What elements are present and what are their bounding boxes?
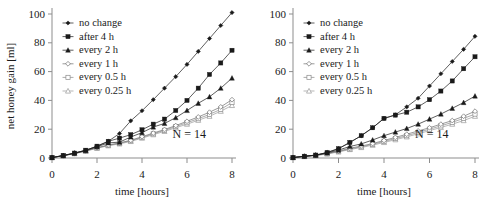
data-marker	[427, 117, 432, 122]
x-tick-label: 8	[229, 168, 235, 180]
x-tick-label: 8	[472, 168, 478, 180]
data-marker	[173, 115, 178, 120]
data-marker	[185, 108, 190, 113]
data-marker	[151, 122, 155, 126]
data-marker	[473, 55, 477, 59]
chart-panel-right: 02040608010002468time [hours]no changeaf…	[243, 0, 486, 206]
data-marker	[450, 106, 455, 111]
legend-label: every 0.5 h	[320, 71, 368, 82]
y-tick-label: 40	[275, 94, 287, 106]
x-tick-label: 2	[336, 168, 342, 180]
legend-marker	[63, 75, 74, 79]
legend-marker	[63, 88, 74, 93]
data-marker	[461, 100, 466, 105]
data-marker	[162, 121, 167, 126]
series-every-2-h	[291, 94, 478, 160]
data-marker	[405, 110, 409, 114]
chart-legend: no changeafter 4 hevery 2 hevery 1 hever…	[63, 17, 132, 96]
data-marker	[140, 128, 144, 132]
y-tick-label: 20	[34, 123, 46, 135]
x-tick-label: 2	[94, 168, 100, 180]
legend-label: every 1 h	[79, 58, 119, 69]
data-marker	[462, 67, 466, 71]
legend-marker	[63, 61, 74, 66]
data-marker	[66, 75, 70, 79]
data-marker	[416, 105, 420, 109]
data-marker	[219, 61, 223, 65]
data-marker	[416, 122, 421, 127]
data-marker	[196, 101, 201, 106]
x-axis-title: time [hours]	[115, 185, 169, 197]
series-every-2-h	[50, 76, 235, 160]
legend-label: every 2 h	[320, 44, 360, 55]
data-marker	[473, 94, 478, 99]
data-marker	[207, 94, 212, 99]
data-marker	[307, 75, 311, 79]
data-marker	[174, 108, 178, 112]
legend-label: every 2 h	[79, 44, 119, 55]
legend-marker	[63, 48, 74, 53]
legend-label: every 0.25 h	[320, 85, 373, 96]
x-tick-label: 6	[184, 168, 190, 180]
data-marker	[307, 61, 312, 66]
data-marker	[427, 98, 431, 102]
y-tick-label: 40	[34, 94, 46, 106]
x-tick-label: 0	[49, 168, 55, 180]
sample-size-annotation: N = 14	[173, 127, 206, 141]
y-tick-label: 0	[281, 152, 287, 164]
y-tick-label: 80	[34, 36, 46, 48]
chart-svg-right: 02040608010002468time [hours]no changeaf…	[243, 0, 486, 206]
legend-marker	[304, 75, 315, 79]
data-marker	[129, 133, 133, 137]
y-axis-title: net honey gain [ml]	[4, 43, 16, 129]
x-tick-label: 0	[290, 168, 296, 180]
x-axis-title: time [hours]	[357, 185, 411, 197]
legend-marker	[304, 21, 315, 25]
legend-label: no change	[320, 17, 363, 28]
series-after-4-h	[50, 48, 234, 159]
data-marker	[439, 89, 443, 93]
data-marker	[196, 86, 200, 90]
data-marker	[117, 136, 121, 140]
legend-marker	[63, 21, 74, 25]
x-tick-label: 4	[381, 168, 387, 180]
data-marker	[185, 98, 189, 102]
legend-label: after 4 h	[79, 31, 115, 42]
chart-legend: no changeafter 4 hevery 2 hevery 1 hever…	[304, 17, 373, 96]
data-marker	[307, 21, 311, 25]
data-marker	[66, 21, 70, 25]
y-tick-label: 0	[40, 152, 46, 164]
legend-label: every 0.25 h	[79, 85, 132, 96]
data-marker	[230, 76, 235, 81]
legend-marker	[304, 48, 315, 53]
data-marker	[438, 112, 443, 117]
legend-label: after 4 h	[320, 31, 356, 42]
y-tick-label: 100	[29, 8, 46, 20]
x-tick-label: 6	[427, 168, 433, 180]
data-marker	[162, 117, 166, 121]
legend-marker	[304, 88, 315, 93]
figure-container: 02040608010002468time [hours]net honey g…	[0, 0, 486, 206]
data-marker	[450, 79, 454, 83]
sample-size-annotation: N = 14	[415, 127, 448, 141]
x-tick-label: 4	[139, 168, 145, 180]
y-tick-label: 60	[275, 65, 287, 77]
y-tick-label: 100	[270, 8, 287, 20]
data-marker	[359, 141, 364, 146]
data-marker	[307, 35, 311, 39]
data-marker	[230, 48, 234, 52]
legend-marker	[63, 35, 74, 39]
chart-svg-left: 02040608010002468time [hours]net honey g…	[0, 0, 243, 206]
y-tick-label: 80	[275, 36, 287, 48]
legend-label: no change	[79, 17, 122, 28]
data-marker	[370, 138, 375, 143]
y-tick-label: 60	[34, 65, 46, 77]
chart-panel-left: 02040608010002468time [hours]net honey g…	[0, 0, 243, 206]
legend-marker	[304, 35, 315, 39]
data-marker	[207, 72, 211, 76]
y-tick-label: 20	[275, 123, 287, 135]
data-marker	[404, 126, 409, 131]
legend-label: every 1 h	[320, 58, 360, 69]
data-marker	[66, 35, 70, 39]
legend-label: every 0.5 h	[79, 71, 127, 82]
